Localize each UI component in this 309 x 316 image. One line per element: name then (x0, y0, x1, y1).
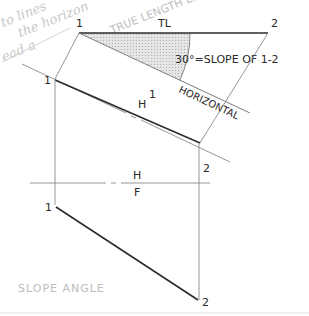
top-point-2-label: 2 (203, 162, 210, 175)
front-point-2-label: 2 (202, 296, 209, 309)
fold-line-h1-cont (141, 120, 230, 162)
fold-hf-lower-label: F (134, 186, 140, 199)
caption: SLOPE ANGLE (18, 282, 105, 295)
projector-1-aux (55, 33, 79, 79)
slope-angle-drawing: to lines the horizon ead a TRUE LENGTH E… (0, 0, 309, 316)
fold-h1-lower-label: H (138, 98, 146, 111)
angle-annotation: 30°=SLOPE OF 1-2 (175, 53, 279, 66)
aux-point-2-label: 2 (271, 17, 278, 30)
fold-line-h1-dash (131, 116, 136, 118)
slope-angle-wedge (79, 33, 190, 80)
aux-point-1-label: 1 (76, 17, 83, 30)
handwritten-note: to lines the horizon ead a (0, 0, 97, 64)
horizontal-label: HORIZONTAL (177, 84, 241, 122)
fold-h1-upper-label: 1 (149, 88, 156, 101)
top-point-1-label: 1 (44, 74, 51, 87)
projector-2-aux (200, 33, 268, 143)
front-point-1-label: 1 (45, 201, 52, 214)
true-length-label: TL (157, 17, 172, 30)
fold-hf-upper-label: H (133, 169, 141, 182)
handwritten-line-4: TRUE LENGTH EDGE VIEW (107, 0, 246, 37)
